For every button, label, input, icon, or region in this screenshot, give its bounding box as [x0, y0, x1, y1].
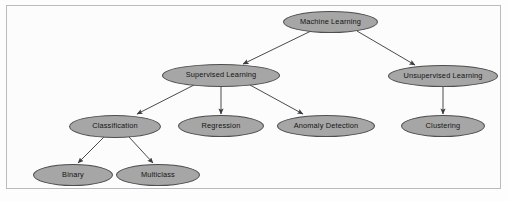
node-unsupervised-learning[interactable]: Unsupervised Learning	[388, 65, 498, 87]
node-label-machine-learning: Machine Learning	[300, 18, 361, 25]
node-label-classification: Classification	[92, 122, 138, 129]
edge-supervised-classification	[137, 85, 194, 114]
node-label-supervised-learning: Supervised Learning	[186, 71, 257, 78]
node-label-unsupervised-learning: Unsupervised Learning	[403, 72, 482, 79]
node-clustering[interactable]: Clustering	[401, 115, 485, 137]
edge-ml-unsupervised	[357, 31, 415, 65]
diagram-canvas: Machine Learning Supervised Learning Uns…	[0, 0, 509, 201]
node-anomaly-detection[interactable]: Anomaly Detection	[277, 115, 375, 137]
node-binary[interactable]: Binary	[33, 164, 113, 186]
node-machine-learning[interactable]: Machine Learning	[283, 11, 378, 33]
node-label-regression: Regression	[202, 122, 241, 129]
node-classification[interactable]: Classification	[69, 115, 161, 138]
node-label-anomaly-detection: Anomaly Detection	[294, 122, 359, 129]
edge-classification-multiclass	[129, 137, 153, 163]
edge-ml-supervised	[243, 31, 311, 64]
node-label-clustering: Clustering	[426, 122, 461, 129]
node-multiclass[interactable]: Multiclass	[116, 164, 200, 186]
node-supervised-learning[interactable]: Supervised Learning	[162, 64, 280, 87]
edge-supervised-anomaly	[250, 85, 303, 114]
node-label-binary: Binary	[62, 171, 84, 178]
node-regression[interactable]: Regression	[178, 115, 264, 137]
edge-classification-binary	[78, 137, 104, 163]
edges-group	[78, 31, 443, 163]
node-label-multiclass: Multiclass	[141, 171, 175, 178]
